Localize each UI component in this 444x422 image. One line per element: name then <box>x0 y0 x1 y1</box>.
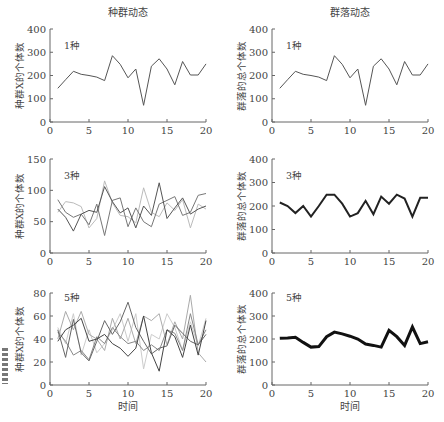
y-tick-label: 50 <box>33 216 46 227</box>
species-count-annotation: 1种 <box>64 40 80 51</box>
x-tick-label: 10 <box>344 125 357 136</box>
y-tick-label: 200 <box>249 70 268 81</box>
x-tick-label: 20 <box>200 388 213 399</box>
y-tick-label: 100 <box>27 185 46 196</box>
y-axis-label: 种群X的个体数 <box>14 306 25 373</box>
y-tick-label: 40 <box>33 334 46 345</box>
x-tick-label: 20 <box>200 125 213 136</box>
y-tick-label: 150 <box>27 154 46 165</box>
panel-bottom-right: 010020030040005101520群落的总个体数5种 <box>236 288 434 400</box>
series-line <box>58 181 206 228</box>
y-tick-label: 0 <box>262 380 268 391</box>
x-tick-label: 5 <box>86 256 92 267</box>
x-tick-label: 0 <box>47 256 53 267</box>
x-tick-label: 10 <box>122 388 135 399</box>
species-count-annotation: 3种 <box>286 170 302 181</box>
x-tick-label: 20 <box>422 125 435 136</box>
y-tick-label: 300 <box>249 177 268 188</box>
y-axis-label: 种群X的个体数 <box>14 42 25 109</box>
y-axis-label: 群落的总个体数 <box>236 304 247 374</box>
x-tick-label: 10 <box>344 256 357 267</box>
x-tick-label: 20 <box>200 256 213 267</box>
y-axis-label: 种群X的个体数 <box>14 173 25 240</box>
series-line <box>58 314 206 369</box>
y-tick-label: 200 <box>249 334 268 345</box>
y-tick-label: 100 <box>27 93 46 104</box>
y-tick-label: 300 <box>249 47 268 58</box>
column-title-community: 群落动态 <box>330 6 370 18</box>
x-axis-label-left: 时间 <box>118 400 138 412</box>
x-tick-label: 15 <box>383 256 396 267</box>
x-tick-label: 15 <box>161 256 174 267</box>
x-tick-label: 0 <box>269 388 275 399</box>
x-tick-label: 0 <box>269 256 275 267</box>
scan-artifact <box>2 348 8 384</box>
y-tick-label: 0 <box>40 117 46 128</box>
column-title-population: 种群动态 <box>108 6 148 18</box>
x-tick-label: 10 <box>122 256 135 267</box>
x-tick-label: 5 <box>86 388 92 399</box>
figure: 种群动态 群落动态 010020030040005101520种群X的个体数1种… <box>0 0 444 422</box>
species-count-annotation: 1种 <box>286 40 302 51</box>
x-tick-label: 15 <box>161 125 174 136</box>
panel-top-right: 010020030040005101520群落的总个体数1种 <box>236 24 434 137</box>
species-count-annotation: 5种 <box>64 292 80 303</box>
y-tick-label: 400 <box>249 288 268 299</box>
y-tick-label: 300 <box>249 311 268 322</box>
y-tick-label: 300 <box>27 47 46 58</box>
y-tick-label: 60 <box>33 311 46 322</box>
y-tick-label: 100 <box>249 224 268 235</box>
panel-middle-left: 05010015005101520种群X的个体数3种 <box>14 154 212 268</box>
y-tick-label: 200 <box>249 201 268 212</box>
chart-grid: 种群动态 群落动态 010020030040005101520种群X的个体数1种… <box>0 0 444 422</box>
panel-middle-right: 010020030040005101520群落的总个体数3种 <box>236 154 434 268</box>
x-tick-label: 5 <box>308 125 314 136</box>
y-tick-label: 400 <box>27 24 46 35</box>
series-line <box>58 183 206 231</box>
x-tick-label: 20 <box>422 388 435 399</box>
y-tick-label: 80 <box>33 288 46 299</box>
y-tick-label: 0 <box>40 380 46 391</box>
panel-bottom-left: 02040608005101520种群X的个体数5种 <box>14 288 212 400</box>
series-line <box>280 56 428 106</box>
y-tick-label: 0 <box>262 117 268 128</box>
y-axis-label: 群落的总个体数 <box>236 41 247 111</box>
x-axis-label-right: 时间 <box>340 400 360 412</box>
y-tick-label: 400 <box>249 24 268 35</box>
y-tick-label: 100 <box>249 357 268 368</box>
series-line <box>280 195 428 217</box>
y-axis-label: 群落的总个体数 <box>236 171 247 241</box>
x-tick-label: 20 <box>422 256 435 267</box>
y-tick-label: 400 <box>249 154 268 165</box>
x-tick-label: 10 <box>122 125 135 136</box>
x-tick-label: 5 <box>308 256 314 267</box>
series-line <box>58 56 206 106</box>
x-tick-label: 15 <box>383 388 396 399</box>
series-line <box>280 327 428 347</box>
x-tick-label: 0 <box>269 125 275 136</box>
x-tick-label: 15 <box>161 388 174 399</box>
x-tick-label: 10 <box>344 388 357 399</box>
y-tick-label: 0 <box>40 248 46 259</box>
species-count-annotation: 3种 <box>64 170 80 181</box>
x-tick-label: 0 <box>47 125 53 136</box>
x-tick-label: 15 <box>383 125 396 136</box>
x-tick-label: 0 <box>47 388 53 399</box>
panel-top-left: 010020030040005101520种群X的个体数1种 <box>14 24 212 137</box>
y-tick-label: 20 <box>33 357 46 368</box>
y-tick-label: 200 <box>27 70 46 81</box>
x-tick-label: 5 <box>308 388 314 399</box>
species-count-annotation: 5种 <box>286 292 302 303</box>
x-tick-label: 5 <box>86 125 92 136</box>
y-tick-label: 0 <box>262 248 268 259</box>
y-tick-label: 100 <box>249 93 268 104</box>
